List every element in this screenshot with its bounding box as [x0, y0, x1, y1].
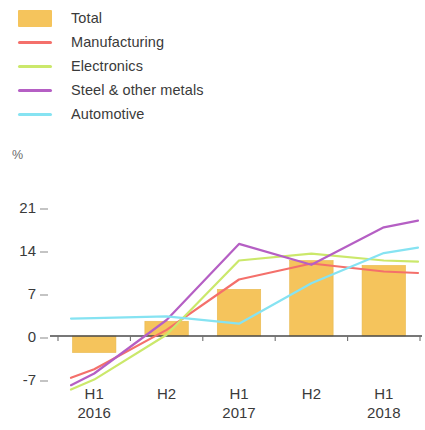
x-axis-tick-label: H2 — [157, 384, 176, 403]
x-axis-tick-label: H12016 — [78, 384, 111, 422]
legend-item-label: Electronics — [62, 58, 143, 74]
bar — [290, 260, 333, 336]
legend-item-label: Steel & other metals — [62, 82, 204, 98]
bar-series-total — [72, 260, 405, 352]
legend-swatch-line-icon — [18, 30, 62, 54]
chart-canvas — [0, 140, 425, 430]
legend-color-mark — [18, 10, 52, 27]
x-tick-half: H2 — [157, 385, 176, 402]
chart-legend: TotalManufacturingElectronicsSteel & oth… — [18, 6, 318, 126]
bar — [72, 336, 115, 353]
x-tick-half: H1 — [374, 385, 393, 402]
x-tick-year: 2018 — [367, 403, 400, 422]
legend-item[interactable]: Manufacturing — [18, 30, 318, 54]
legend-color-mark — [18, 113, 52, 116]
legend-item-label: Manufacturing — [62, 34, 164, 50]
x-axis-tick-label: H2 — [302, 384, 321, 403]
legend-item[interactable]: Automotive — [18, 102, 318, 126]
x-axis-tick-label: H12018 — [367, 384, 400, 422]
legend-color-mark — [18, 41, 52, 44]
chart-figure: TotalManufacturingElectronicsSteel & oth… — [0, 0, 425, 430]
x-tick-year: 2017 — [222, 403, 255, 422]
legend-swatch-line-icon — [18, 102, 62, 126]
x-axis-tick-label: H12017 — [222, 384, 255, 422]
legend-item-label: Total — [62, 10, 102, 26]
bar — [362, 265, 405, 336]
legend-color-mark — [18, 65, 52, 68]
x-tick-half: H1 — [85, 385, 104, 402]
legend-swatch-box-icon — [18, 6, 62, 30]
legend-item[interactable]: Total — [18, 6, 318, 30]
x-tick-year: 2016 — [78, 403, 111, 422]
legend-swatch-line-icon — [18, 54, 62, 78]
legend-item[interactable]: Steel & other metals — [18, 78, 318, 102]
plot-area: % 211470-7 H12016H2H12017H2H12018 — [0, 140, 425, 430]
x-tick-half: H2 — [302, 385, 321, 402]
legend-item[interactable]: Electronics — [18, 54, 318, 78]
legend-swatch-line-icon — [18, 78, 62, 102]
bar — [217, 289, 260, 336]
legend-item-label: Automotive — [62, 106, 145, 122]
x-tick-half: H1 — [229, 385, 248, 402]
legend-color-mark — [18, 89, 52, 92]
